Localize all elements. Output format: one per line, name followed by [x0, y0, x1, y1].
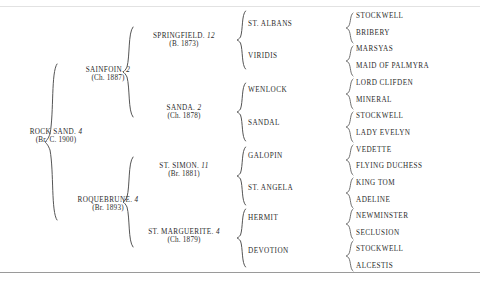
pedigree-node-mineral: MINERAL: [356, 96, 476, 104]
pedigree-node-devotion: DEVOTION: [248, 247, 344, 255]
brace-st-simon-to-gen4: [236, 146, 248, 206]
node-name: LORD CLIFDEN: [356, 79, 476, 87]
node-name: NEWMINSTER: [356, 212, 476, 220]
node-name: LADY EVELYN: [356, 129, 476, 137]
pedigree-node-wenlock: WENLOCK: [248, 86, 344, 94]
node-name: SPRINGFIELD. 12: [132, 32, 236, 40]
pedigree-node-lady-evelyn: LADY EVELYN: [356, 129, 476, 137]
node-name: WENLOCK: [248, 86, 344, 94]
node-name: BRIBERY: [356, 29, 476, 37]
pedigree-node-springfield: SPRINGFIELD. 12 (B. 1873): [132, 32, 236, 49]
node-name: VIRIDIS: [248, 52, 344, 60]
node-detail: (Ch. 1879): [132, 236, 236, 244]
node-name: STOCKWELL: [356, 245, 476, 253]
node-name: SECLUSION: [356, 229, 476, 237]
node-name: HERMIT: [248, 214, 344, 222]
node-name: SANDA. 2: [132, 104, 236, 112]
node-name: KING TOM: [356, 179, 476, 187]
node-name: ST. MARGUERITE. 4: [132, 228, 236, 236]
pedigree-node-flying-duchess: FLYING DUCHESS: [356, 162, 476, 170]
node-name: MAID OF PALMYRA: [356, 62, 476, 70]
generation-5-column: STOCKWELL BRIBERY MARSYAS MAID OF PALMYR…: [356, 0, 476, 284]
node-name: ADELINE: [356, 196, 476, 204]
pedigree-node-adeline: ADELINE: [356, 196, 476, 204]
node-detail: (Ch. 1878): [132, 112, 236, 120]
pedigree-node-sandal: SANDAL: [248, 119, 344, 127]
node-name: ST. ANGELA: [248, 184, 344, 192]
pedigree-node-st-marguerite: ST. MARGUERITE. 4 (Ch. 1879): [132, 228, 236, 245]
pedigree-node-hermit: HERMIT: [248, 214, 344, 222]
brace-devotion-to-gen5: [345, 240, 355, 272]
pedigree-node-marsyas: MARSYAS: [356, 45, 476, 53]
brace-st-angela-to-gen5: [345, 177, 355, 209]
pedigree-node-galopin: GALOPIN: [248, 152, 344, 160]
node-detail: (Br. 1881): [132, 170, 236, 178]
node-name: VEDETTE: [356, 146, 476, 154]
node-detail: (B. 1873): [132, 40, 236, 48]
pedigree-node-st-angela: ST. ANGELA: [248, 184, 344, 192]
brace-sandal-to-gen5: [345, 111, 355, 143]
generation-4-column: ST. ALBANS VIRIDIS WENLOCK SANDAL GALOPI…: [248, 0, 344, 284]
pedigree-node-lord-clifden: LORD CLIFDEN: [356, 79, 476, 87]
brace-viridis-to-gen5: [345, 45, 355, 77]
pedigree-chart: ROCK SAND. 4 (Br. C. 1900) SAINFOIN. 2 (…: [0, 0, 480, 284]
node-name: ST. SIMON. 11: [132, 162, 236, 170]
brace-springfield-to-gen4: [236, 10, 248, 70]
pedigree-node-sanda: SANDA. 2 (Ch. 1878): [132, 104, 236, 121]
node-name: MINERAL: [356, 96, 476, 104]
brace-galopin-to-gen5: [345, 144, 355, 176]
pedigree-node-alcestis: ALCESTIS: [356, 262, 476, 270]
node-name: GALOPIN: [248, 152, 344, 160]
pedigree-node-seclusion: SECLUSION: [356, 229, 476, 237]
pedigree-node-maid-of-palmyra: MAID OF PALMYRA: [356, 62, 476, 70]
node-name: MARSYAS: [356, 45, 476, 53]
pedigree-node-stockwell-1: STOCKWELL: [356, 12, 476, 20]
brace-sanda-to-gen4: [236, 82, 248, 142]
node-name: ALCESTIS: [356, 262, 476, 270]
pedigree-node-st-albans: ST. ALBANS: [248, 20, 344, 28]
pedigree-node-stockwell-3: STOCKWELL: [356, 245, 476, 253]
generation-3-column: SPRINGFIELD. 12 (B. 1873) SANDA. 2 (Ch. …: [132, 0, 236, 284]
pedigree-node-newminster: NEWMINSTER: [356, 212, 476, 220]
pedigree-node-st-simon: ST. SIMON. 11 (Br. 1881): [132, 162, 236, 179]
pedigree-node-stockwell-2: STOCKWELL: [356, 112, 476, 120]
node-name: STOCKWELL: [356, 112, 476, 120]
node-name: SANDAL: [248, 119, 344, 127]
node-name: DEVOTION: [248, 247, 344, 255]
pedigree-node-viridis: VIRIDIS: [248, 52, 344, 60]
brace-st-marguerite-to-gen4: [236, 208, 248, 268]
pedigree-node-vedette: VEDETTE: [356, 146, 476, 154]
brace-hermit-to-gen5: [345, 208, 355, 240]
pedigree-node-king-tom: KING TOM: [356, 179, 476, 187]
node-name: STOCKWELL: [356, 12, 476, 20]
brace-wenlock-to-gen5: [345, 78, 355, 110]
brace-st-albans-to-gen5: [345, 12, 355, 44]
pedigree-node-bribery: BRIBERY: [356, 29, 476, 37]
node-name: FLYING DUCHESS: [356, 162, 476, 170]
node-name: ST. ALBANS: [248, 20, 344, 28]
